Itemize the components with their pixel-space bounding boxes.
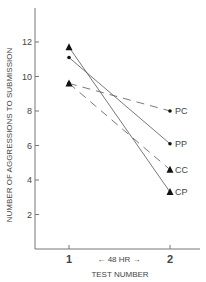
triangle-marker-icon <box>66 79 73 86</box>
x-axis-label: TEST NUMBER <box>91 270 148 279</box>
y-tick-label: 4 <box>27 175 32 185</box>
series-line-cc <box>69 83 170 169</box>
x-tick-2: 2 <box>167 253 173 265</box>
interval-annotation: ← 48 HR → <box>97 255 140 264</box>
dot-marker-icon <box>168 109 172 113</box>
series-line-cp <box>69 47 170 192</box>
dot-marker-icon <box>168 142 172 146</box>
y-tick-label: 12 <box>22 37 32 47</box>
x-axis: 1 2 ← 48 HR → TEST NUMBER <box>35 245 200 279</box>
y-tick-label: 2 <box>27 210 32 220</box>
dot-marker-icon <box>67 56 71 60</box>
series-label-cp: CP <box>175 187 188 197</box>
y-axis: 24681012 <box>22 8 39 249</box>
x-tick-1: 1 <box>66 253 72 265</box>
series-line-pc <box>69 83 170 111</box>
series-label-pc: PC <box>175 106 188 116</box>
series-label-pp: PP <box>175 139 187 149</box>
triangle-marker-icon <box>167 166 174 173</box>
series-group: PCPPCCCP <box>66 43 189 197</box>
y-tick-label: 8 <box>27 106 32 116</box>
y-tick-label: 10 <box>22 72 32 82</box>
series-label-cc: CC <box>175 165 188 175</box>
y-axis-label: NUMBER OF AGGRESSIONS TO SUBMISSION <box>5 48 14 223</box>
y-tick-label: 6 <box>27 141 32 151</box>
series-line-pp <box>69 58 170 144</box>
triangle-marker-icon <box>66 43 73 50</box>
line-chart: 24681012 1 2 ← 48 HR → TEST NUMBER NUMBE… <box>0 0 206 282</box>
